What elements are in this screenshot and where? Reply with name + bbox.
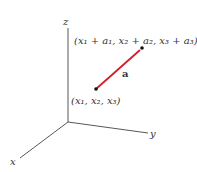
vector-label: a	[122, 68, 129, 79]
y-axis-label: y	[149, 128, 156, 139]
end-point	[140, 46, 144, 50]
z-axis-label: z	[62, 16, 69, 27]
start-point-label: (x₁, x₂, x₃)	[71, 95, 121, 106]
y-axis	[68, 122, 148, 133]
vector-a-arrow	[96, 50, 140, 89]
end-point-label: (x₁ + a₁, x₂ + a₂, x₃ + a₃)	[74, 35, 197, 46]
vector-diagram: z y x a (x₁ + a₁, x₂ + a₂, x₃ + a₃) (x₁,…	[0, 0, 197, 172]
start-point	[94, 87, 98, 91]
x-axis	[20, 122, 68, 158]
x-axis-label: x	[10, 156, 16, 167]
